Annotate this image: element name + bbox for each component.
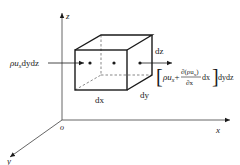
derivative-denominator: ∂x	[186, 79, 193, 87]
origin-label: o	[60, 123, 64, 132]
outflow-dx: dx	[202, 73, 210, 82]
dy-label: dy	[140, 90, 150, 100]
derivative-numerator: ∂(ρux)	[181, 68, 199, 77]
y-axis-label: y	[6, 156, 11, 165]
dx-label: dx	[95, 95, 105, 105]
x-axis-label: x	[215, 125, 220, 135]
outflow-label: [ ρux+ ∂(ρux) ∂x dx ] dydz	[156, 65, 234, 87]
diagram-canvas: z x y o dx dy dz ρuxdydz [ ρux+ ∂(ρux) ∂…	[0, 0, 240, 165]
dz-label: dz	[155, 46, 164, 56]
outflow-rest: dydz	[218, 73, 234, 82]
open-bracket: [	[156, 65, 163, 87]
z-axis-label: z	[65, 11, 70, 21]
y-axis	[10, 120, 62, 157]
inflow-label: ρuxdydz	[9, 58, 39, 69]
point-left	[88, 61, 91, 64]
point-center	[112, 61, 115, 64]
outflow-base-term: ρux+	[162, 72, 180, 83]
